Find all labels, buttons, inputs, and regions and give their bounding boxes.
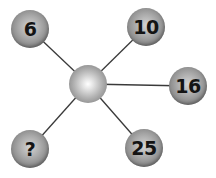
number-puzzle-diagram: 6 10 16 ? 25	[0, 0, 216, 178]
node-label: 10	[133, 16, 158, 38]
node-label: 25	[131, 137, 156, 159]
node-ball-25: 25	[125, 129, 163, 167]
node-ball-10: 10	[127, 8, 165, 46]
center-hub-ball	[69, 65, 107, 103]
node-ball-unknown: ?	[11, 130, 49, 168]
node-ball-6: 6	[11, 10, 49, 48]
node-label: 6	[24, 18, 37, 40]
node-ball-16: 16	[169, 67, 207, 105]
node-label: 16	[175, 75, 200, 97]
question-mark-label: ?	[25, 138, 36, 160]
